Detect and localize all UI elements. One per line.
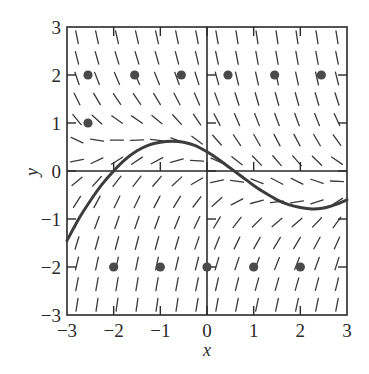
slope-segment [176, 278, 178, 291]
slope-segment [96, 298, 98, 311]
slope-segment [254, 134, 260, 145]
slope-segment [276, 31, 278, 44]
slope-segment [136, 257, 139, 270]
slope-segment [115, 216, 119, 228]
slope-segment [195, 237, 199, 249]
slope-segment [271, 178, 283, 184]
slope-segment [91, 158, 103, 164]
slope-segment [233, 217, 241, 227]
slope-segment [256, 298, 259, 311]
slope-segment [156, 31, 159, 44]
slope-segment [236, 31, 238, 44]
slope-segment [154, 93, 161, 104]
slope-segment [294, 134, 300, 145]
slope-segment [274, 134, 280, 146]
y-axis-label: y [22, 168, 42, 178]
slope-segment [212, 198, 222, 207]
slope-segment [254, 237, 260, 248]
slope-segment [75, 72, 79, 84]
slope-segment [95, 237, 98, 250]
slope-segment [133, 176, 141, 186]
slope-segment [215, 93, 219, 105]
slope-segment [216, 31, 218, 44]
y-tick-label: 1 [52, 113, 62, 134]
slope-segment [276, 51, 278, 64]
slope-segment [315, 93, 319, 105]
slope-segment [213, 135, 222, 145]
slope-segment [136, 298, 138, 311]
slope-segment [235, 72, 238, 85]
slope-segment [256, 31, 258, 44]
slope-segment [296, 298, 299, 311]
slope-segment [255, 114, 260, 126]
slope-segment [96, 31, 99, 44]
slope-segment [315, 257, 319, 269]
slope-segment [114, 196, 120, 208]
slope-segment [152, 115, 162, 123]
slope-segment [94, 93, 101, 104]
marked-point [223, 70, 232, 79]
marked-point [109, 262, 118, 271]
slope-segment [295, 278, 299, 291]
y-tick-label: 3 [52, 17, 62, 38]
slope-segment [216, 298, 218, 311]
slope-segment [173, 115, 182, 125]
slope-segment [172, 177, 182, 186]
slope-segment [176, 257, 179, 270]
slope-segment [335, 72, 338, 85]
slope-segment [115, 52, 119, 64]
marked-point [249, 262, 258, 271]
slope-segment [155, 52, 159, 64]
slope-segment [115, 237, 118, 250]
slope-segment [196, 278, 199, 291]
slope-segment [73, 196, 80, 207]
slope-segment [192, 136, 202, 144]
slope-segment [175, 216, 180, 228]
slope-segment [215, 257, 219, 269]
slope-segment [331, 181, 344, 182]
slope-segment [191, 178, 202, 185]
x-tick-label: −2 [104, 320, 124, 341]
slope-segment [313, 218, 322, 227]
slope-segment [194, 93, 199, 105]
slope-segment [235, 93, 239, 105]
slope-segment [336, 298, 338, 311]
slope-segment [275, 113, 279, 125]
y-tick-label: −1 [41, 209, 61, 230]
slope-segment [275, 258, 280, 270]
slope-segment [296, 31, 298, 44]
slope-segment [113, 176, 121, 186]
slope-segment [275, 93, 278, 106]
slope-segment [216, 278, 219, 291]
slope-segment [76, 298, 78, 311]
slope-segment [75, 52, 78, 65]
slope-segment [116, 298, 118, 311]
slope-segment [136, 31, 139, 44]
slope-segment [191, 160, 204, 161]
slope-segment [154, 196, 160, 208]
slope-segment [176, 298, 178, 311]
slope-segment [333, 135, 341, 146]
slope-segment [193, 114, 200, 125]
slope-segment [135, 52, 139, 64]
slope-segment [316, 298, 319, 311]
slope-segment [336, 51, 339, 64]
x-tick-label: −1 [150, 320, 170, 341]
slope-segment [316, 31, 318, 44]
slope-segment [315, 114, 320, 126]
y-tick-label: 0 [52, 161, 62, 182]
slope-segment [236, 298, 239, 311]
slope-segment [155, 237, 158, 250]
marked-point [177, 70, 186, 79]
slope-segment [193, 197, 201, 207]
slope-segment [156, 298, 158, 311]
slope-segment [291, 201, 304, 203]
slope-segment [275, 278, 279, 290]
slope-segment [195, 72, 199, 84]
slope-segment [95, 52, 99, 65]
axes [67, 27, 347, 315]
slope-segment [216, 51, 219, 64]
slope-segment [234, 237, 240, 249]
slope-segment [174, 93, 180, 105]
marked-point [270, 70, 279, 79]
